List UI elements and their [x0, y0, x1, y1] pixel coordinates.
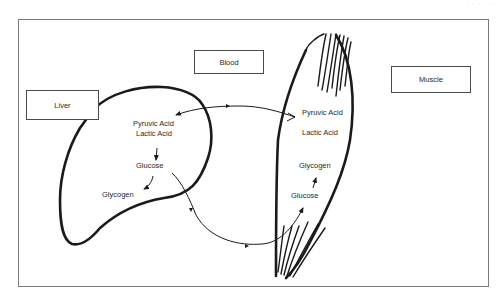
muscle-glycogen-label: Glycogen [299, 161, 331, 170]
muscle-box-label: Muscle [419, 75, 443, 84]
blood-box: Blood [194, 50, 264, 74]
muscle-top-fibers [306, 34, 351, 96]
glucose-to-glycogen-arrow [144, 176, 153, 189]
blood-box-label: Blood [219, 58, 238, 67]
liver-box: Liver [26, 90, 99, 120]
muscle-glucose-to-glycogen-arrow [313, 178, 316, 188]
muscle-bottom-fibers [278, 222, 325, 277]
liver-lactic-acid-label: Lactic Acid [136, 129, 172, 138]
cori-cycle-diagram [0, 0, 500, 302]
muscle-lactic-acid-label: Lactic Acid [302, 128, 338, 137]
liver-glycogen-label: Glycogen [102, 190, 134, 199]
lactate-to-glucose-arrow [156, 148, 157, 160]
muscle-pyruvic-acid-label: Pyruvic Acid [302, 108, 343, 117]
liver-box-label: Liver [54, 101, 70, 110]
lactate-to-liver-arrow [176, 106, 295, 117]
muscle-box: Muscle [391, 66, 471, 93]
muscle-glucose-label: Glucose [291, 191, 319, 200]
liver-glucose-label: Glucose [136, 161, 164, 170]
liver-pyruvic-acid-label: Pyruvic Acid [133, 119, 174, 128]
